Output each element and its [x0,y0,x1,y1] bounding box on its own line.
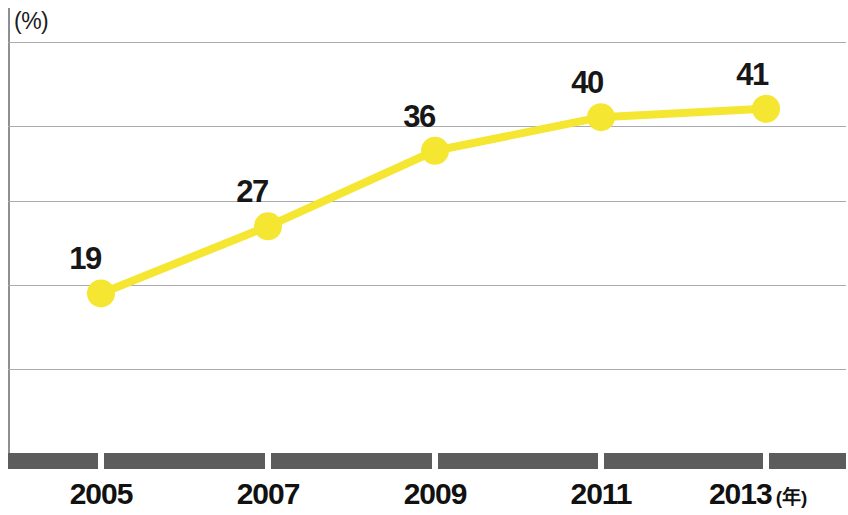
x-axis-segment [604,453,763,469]
x-axis-segment [769,453,846,469]
x-axis-segment [8,453,98,469]
data-point-value-label: 27 [236,176,267,207]
x-axis-segment [271,453,432,469]
x-axis-tick-label: 2009 [404,479,467,509]
x-axis-tick-label: 2005 [70,479,133,509]
x-axis-tick-year: 2005 [70,477,133,510]
series-plot [0,0,848,470]
x-axis-unit-label: (年) [776,487,808,508]
data-point-marker [587,103,615,131]
x-axis-segment [438,453,598,469]
x-axis-tick-label: 2011 [570,479,631,509]
x-axis-tick-year: 2007 [237,477,300,510]
x-axis-band [8,453,846,469]
line-chart: (%) 1927364041 20052007200920112013(年) [0,0,848,515]
x-axis-segment [104,453,265,469]
data-point-marker [87,279,115,307]
data-point-marker [752,95,780,123]
data-point-value-label: 40 [571,67,602,98]
x-axis-tick-year: 2009 [404,477,467,510]
x-axis-tick-year: 2013 [709,477,772,510]
x-axis-tick-year: 2011 [570,477,631,510]
plot-area: (%) 1927364041 [0,0,848,470]
data-point-marker [421,137,449,165]
x-axis-tick-label: 2013(年) [709,479,807,509]
data-point-value-label: 19 [69,243,100,274]
series-line [101,109,766,294]
data-point-value-label: 41 [736,59,767,90]
x-axis-tick-label: 2007 [237,479,300,509]
data-point-marker [254,212,282,240]
data-point-value-label: 36 [403,101,434,132]
